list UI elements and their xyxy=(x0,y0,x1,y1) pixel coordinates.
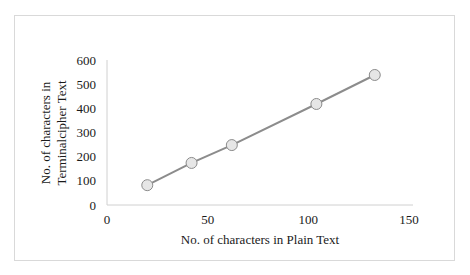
x-tick-label: 100 xyxy=(299,212,319,227)
data-point xyxy=(142,180,153,191)
y-tick-label: 300 xyxy=(77,125,97,140)
y-axis-label-line-2: Terminalcipher Text xyxy=(54,80,69,186)
y-tick-label: 500 xyxy=(77,77,97,92)
y-tick-label: 600 xyxy=(77,53,97,68)
data-point xyxy=(369,69,380,80)
x-axis-label: No. of characters in Plain Text xyxy=(181,232,340,247)
data-point xyxy=(186,157,197,168)
y-axis-label-line-1: No. of characters in xyxy=(38,81,53,184)
y-tick-label: 200 xyxy=(77,149,97,164)
y-tick-label: 100 xyxy=(77,173,97,188)
x-axis-ticks: 050100150 xyxy=(104,212,419,227)
x-tick-label: 50 xyxy=(201,212,214,227)
data-point xyxy=(226,140,237,151)
data-point xyxy=(311,98,322,109)
x-tick-label: 0 xyxy=(104,212,111,227)
y-tick-label: 0 xyxy=(90,198,97,213)
x-tick-label: 150 xyxy=(399,212,419,227)
y-tick-label: 400 xyxy=(77,101,97,116)
y-axis-ticks: 0100200300400500600 xyxy=(77,53,97,213)
y-axis-label: No. of characters in Terminalcipher Text xyxy=(38,80,69,186)
line-chart: 0100200300400500600 050100150 No. of cha… xyxy=(0,0,470,275)
series-line xyxy=(147,75,374,185)
